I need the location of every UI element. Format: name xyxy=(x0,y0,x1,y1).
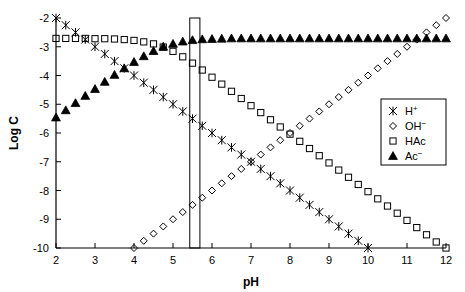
x-tick-label: 11 xyxy=(401,254,412,266)
triangle-marker xyxy=(286,34,295,42)
y-axis-title: Log C xyxy=(7,116,21,150)
square-marker xyxy=(141,39,147,45)
square-marker xyxy=(316,153,322,159)
x-tick-label: 12 xyxy=(440,254,452,266)
triangle-marker xyxy=(100,77,109,85)
star-marker xyxy=(267,172,275,181)
x-tick-label: 10 xyxy=(362,254,374,266)
star-marker xyxy=(325,215,333,224)
square-marker xyxy=(375,196,381,202)
star-marker xyxy=(159,93,167,102)
square-marker xyxy=(209,74,215,80)
diamond-marker xyxy=(267,144,274,151)
y-tick-label: -8 xyxy=(39,185,49,197)
square-marker xyxy=(180,54,186,60)
diamond-marker xyxy=(384,58,391,65)
diamond-marker xyxy=(170,216,177,223)
triangle-marker xyxy=(169,39,178,47)
triangle-marker xyxy=(178,37,187,45)
y-tick-label: -5 xyxy=(39,98,49,110)
square-marker xyxy=(355,181,361,187)
square-marker xyxy=(267,117,273,123)
star-marker xyxy=(111,57,119,66)
triangle-marker xyxy=(403,34,412,42)
y-tick-label: -4 xyxy=(39,70,49,82)
diamond-marker xyxy=(277,137,284,144)
square-marker xyxy=(189,60,195,66)
diamond-marker xyxy=(443,15,450,22)
triangle-marker xyxy=(61,106,70,114)
square-marker xyxy=(92,36,98,42)
star-marker xyxy=(208,129,216,138)
square-marker xyxy=(394,210,400,216)
star-marker xyxy=(315,208,323,217)
square-marker xyxy=(297,138,303,144)
triangle-marker xyxy=(364,34,373,42)
triangle-marker xyxy=(110,71,119,79)
y-tick-label: -10 xyxy=(33,242,49,254)
triangle-marker xyxy=(130,58,139,66)
triangle-marker xyxy=(344,34,353,42)
star-marker xyxy=(276,179,284,188)
diamond-marker xyxy=(394,50,401,57)
triangle-marker xyxy=(373,34,382,42)
star-marker xyxy=(228,143,236,152)
square-marker xyxy=(326,160,332,166)
star-marker xyxy=(179,107,187,116)
log-concentration-diagram: 23456789101112-2-3-4-5-6-7-8-9-10pHLog C… xyxy=(0,0,465,292)
square-marker xyxy=(131,37,137,43)
series-H+ xyxy=(52,14,372,253)
diamond-marker xyxy=(179,209,186,216)
triangle-marker xyxy=(334,34,343,42)
diamond-marker xyxy=(365,72,372,79)
star-marker xyxy=(130,71,138,80)
triangle-marker xyxy=(393,34,402,42)
chart-figure: 23456789101112-2-3-4-5-6-7-8-9-10pHLog C… xyxy=(0,0,465,292)
square-marker xyxy=(404,217,410,223)
star-marker xyxy=(345,229,353,238)
star-marker xyxy=(169,100,177,109)
triangle-marker xyxy=(52,113,61,121)
star-marker xyxy=(286,186,294,195)
x-axis-title: pH xyxy=(243,275,259,289)
diamond-marker xyxy=(140,237,147,244)
diamond-marker xyxy=(296,122,303,129)
diamond-marker xyxy=(404,43,411,50)
triangle-marker xyxy=(354,34,363,42)
x-tick-label: 9 xyxy=(326,254,332,266)
star-marker xyxy=(237,150,245,159)
x-tick-label: 5 xyxy=(170,254,176,266)
square-marker xyxy=(414,224,420,230)
x-tick-label: 7 xyxy=(248,254,254,266)
square-marker xyxy=(248,103,254,109)
triangle-marker xyxy=(71,99,80,107)
square-marker xyxy=(423,232,429,238)
legend: H+OH−HAcAc− xyxy=(381,99,446,165)
triangle-marker xyxy=(227,34,236,42)
star-marker xyxy=(335,222,343,231)
star-marker xyxy=(140,78,148,87)
x-tick-label: 2 xyxy=(53,254,59,266)
star-marker xyxy=(218,136,226,145)
triangle-marker xyxy=(432,34,441,42)
square-marker xyxy=(238,95,244,101)
square-marker xyxy=(277,124,283,130)
square-marker xyxy=(228,88,234,94)
diamond-marker xyxy=(150,230,157,237)
star-marker xyxy=(306,201,314,210)
square-marker xyxy=(306,145,312,151)
diamond-marker xyxy=(335,94,342,101)
triangle-marker xyxy=(266,34,275,42)
triangle-marker xyxy=(315,34,324,42)
triangle-marker xyxy=(149,47,158,55)
star-marker xyxy=(296,193,304,202)
diamond-marker xyxy=(218,180,225,187)
diamond-marker xyxy=(238,165,245,172)
square-marker xyxy=(345,174,351,180)
diamond-marker xyxy=(374,65,381,72)
triangle-marker xyxy=(91,85,100,93)
y-tick-label: -7 xyxy=(39,156,49,168)
legend-label: HAc xyxy=(405,135,426,147)
diamond-marker xyxy=(433,22,440,29)
triangle-marker xyxy=(247,34,256,42)
